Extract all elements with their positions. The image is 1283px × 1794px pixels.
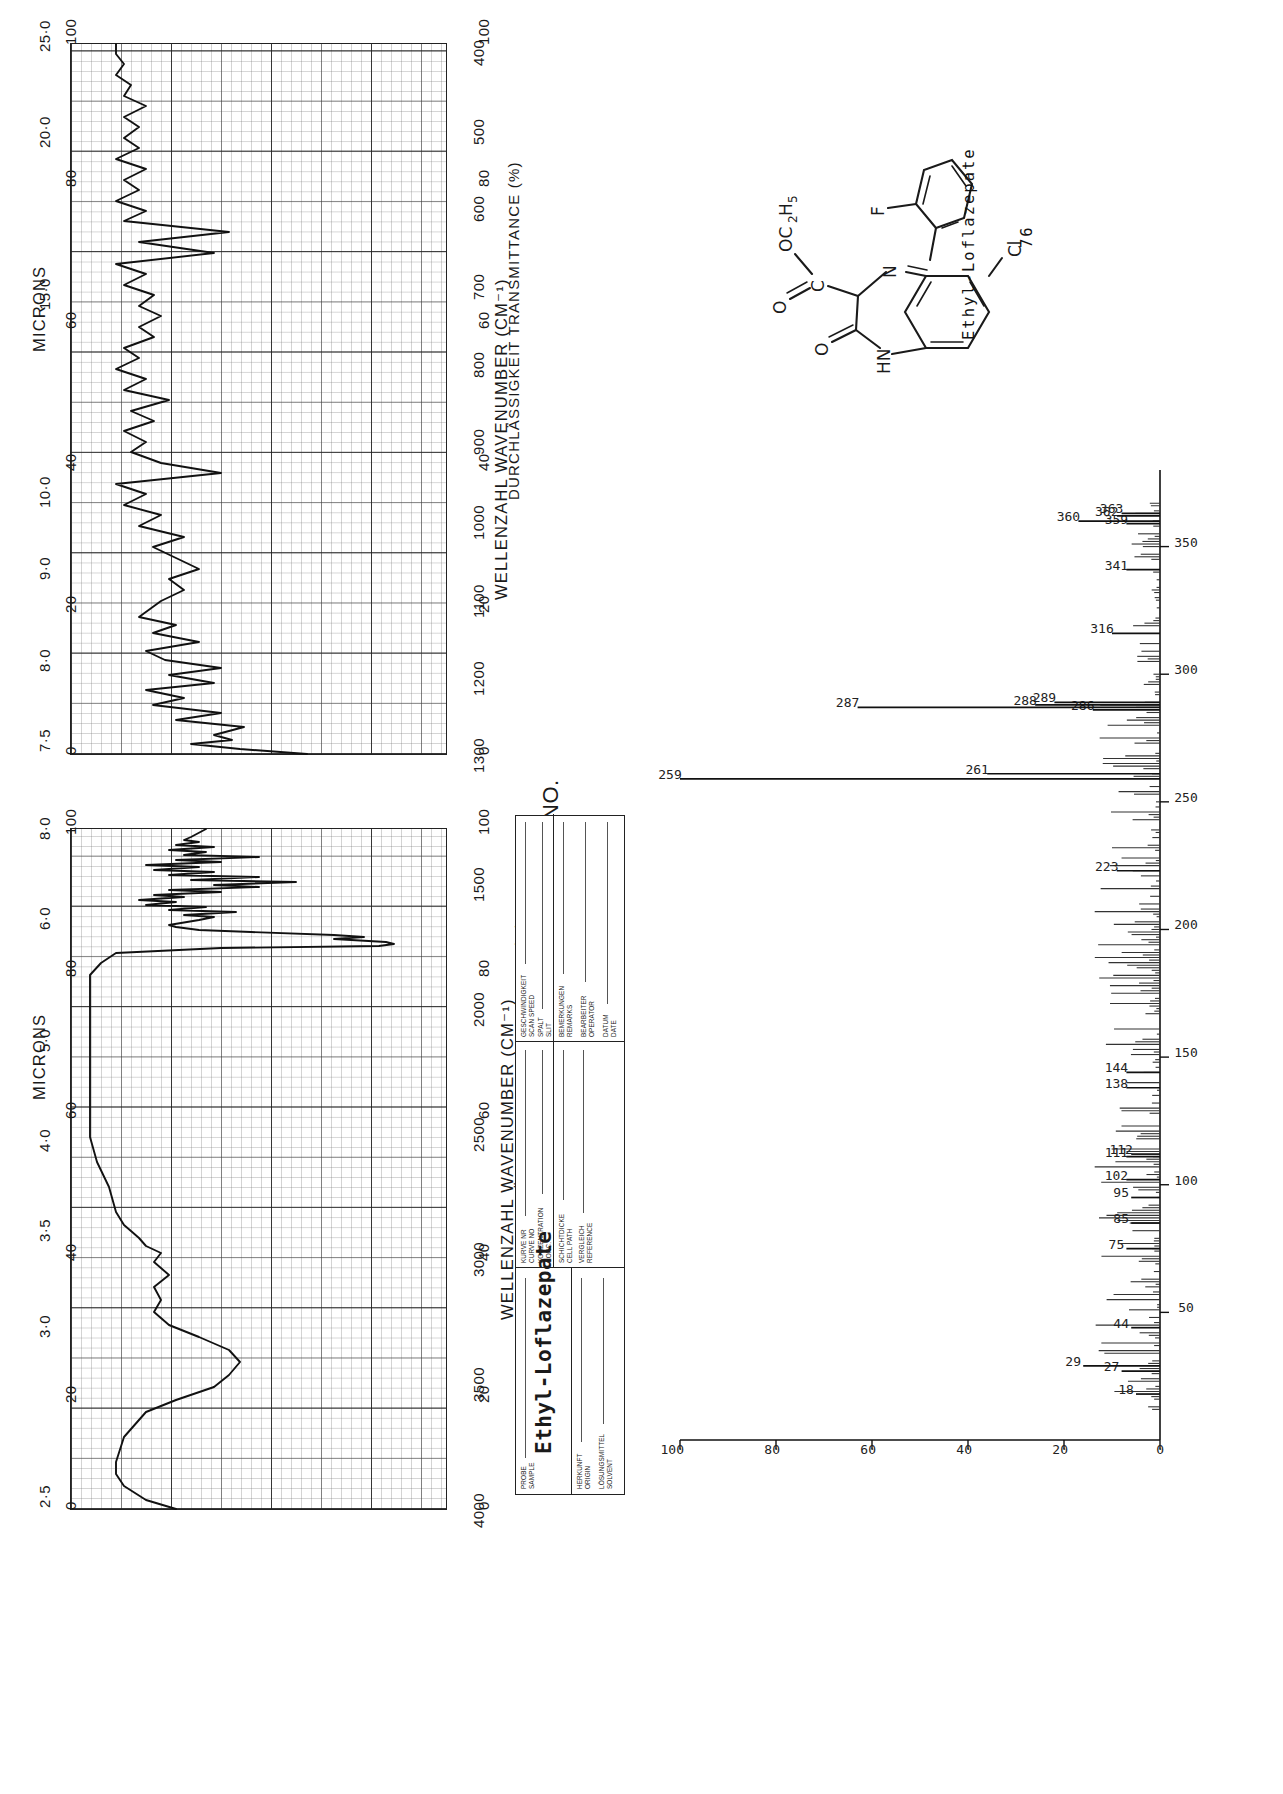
field-cell-path: SCHICHTDICKECELL PATH — [558, 1214, 573, 1263]
field-concentration: KONZENTRATIONCONC. — [537, 1207, 552, 1263]
ir-upper-micron-8: 8·0 — [36, 649, 53, 672]
svg-text:0: 0 — [1156, 1442, 1164, 1457]
ir-lower-wn-3500: 3500 — [470, 1367, 487, 1402]
svg-text:OC: OC — [776, 227, 796, 252]
field-solvent: LÖSUNGSMITTELSOLVENT — [598, 1434, 613, 1489]
ir-lower-wn-2000: 2000 — [470, 992, 487, 1027]
ir-upper-wn-700: 700 — [470, 274, 487, 300]
field-probe-sample: PROBESAMPLE — [520, 1462, 535, 1489]
ir-lower-micron-35: 3·5 — [36, 1219, 53, 1242]
field-rule-10 — [563, 822, 564, 974]
ir-upper-wn-400: 400 — [470, 40, 487, 66]
ms-peak-label: 75 — [1109, 1237, 1125, 1252]
ir-upper-t-40: 40 — [62, 454, 79, 472]
ms-peak-label: 289 — [1033, 690, 1056, 705]
svg-text:N: N — [880, 265, 900, 278]
ms-peak-label: 44 — [1113, 1316, 1129, 1331]
svg-text:5: 5 — [786, 195, 800, 203]
svg-text:H: H — [776, 203, 796, 216]
ms-peak-label: 102 — [1105, 1168, 1128, 1183]
ir-upper-t2-40: 40 — [475, 454, 492, 472]
ir-upper-t2-60: 60 — [475, 312, 492, 330]
svg-text:C: C — [808, 280, 828, 292]
svg-text:F: F — [868, 206, 888, 216]
field-scan-speed: GESCHWINDIGKEITSCAN SPEED — [520, 975, 535, 1037]
ir-upper-wn-1300: 1300 — [470, 738, 487, 773]
ir-upper-wn-600: 600 — [470, 196, 487, 222]
svg-text:60: 60 — [860, 1442, 876, 1457]
ms-peak-label: 259 — [658, 767, 681, 782]
field-rule-1 — [525, 1278, 526, 1458]
ms-peak-label: 95 — [1113, 1186, 1129, 1201]
ir-lower-t-60: 60 — [62, 1102, 79, 1120]
ir-upper-micron-75: 7·5 — [36, 729, 53, 752]
ms-peak-label: 144 — [1105, 1060, 1129, 1075]
ir-grid-lower — [70, 828, 447, 1510]
ms-peak-label: 287 — [836, 695, 859, 710]
ir-panel-lower: 100 80 60 40 20 0 100 80 60 40 20 0 8·0 … — [0, 790, 520, 1550]
ir-lower-microns-title: MICRONS — [30, 1014, 49, 1100]
svg-text:HN: HN — [874, 349, 894, 375]
compound-number-label: 76 — [1018, 225, 1036, 248]
ms-peak-label: 360 — [1057, 509, 1080, 524]
svg-text:300: 300 — [1174, 662, 1197, 677]
svg-text:250: 250 — [1174, 790, 1197, 805]
field-herkunft-origin: HERKUNFTORIGIN — [576, 1453, 591, 1489]
field-rule-11 — [585, 822, 586, 982]
ir-upper-micron-20: 20·0 — [36, 116, 53, 148]
ir-upper-micron-9: 9·0 — [36, 557, 53, 580]
ir-lower-wn-4000: 4000 — [470, 1493, 487, 1528]
ir-lower-t-40: 40 — [62, 1244, 79, 1262]
ir-upper-t-0: 0 — [62, 746, 79, 755]
svg-text:150: 150 — [1174, 1045, 1197, 1060]
svg-text:20: 20 — [1052, 1442, 1068, 1457]
ms-peak-label: 18 — [1118, 1382, 1134, 1397]
svg-text:2: 2 — [786, 215, 800, 223]
field-rule-7 — [583, 1050, 584, 1213]
ir-upper-wn-900: 900 — [470, 429, 487, 455]
field-rule-5 — [542, 1050, 543, 1194]
field-rule-4 — [525, 1050, 526, 1216]
form-sample-title: Ethyl-Loflazepate — [532, 1231, 556, 1454]
ir-upper-wn-800: 800 — [470, 352, 487, 378]
field-remarks: BEMERKUNGENREMARKS — [558, 986, 573, 1037]
field-curve-no: KURVE NRCURVE NO — [520, 1229, 535, 1263]
ir-lower-wn-3000: 3000 — [470, 1242, 487, 1277]
ms-peak-label: 363 — [1100, 501, 1123, 516]
svg-text:80: 80 — [764, 1442, 780, 1457]
ir-curve-upper — [71, 44, 446, 754]
ms-peak-label: 223 — [1095, 859, 1118, 874]
mass-spectrum-svg: 0204060801005010015020025030035018272944… — [640, 450, 1200, 1510]
ir-upper-wn-1100: 1100 — [470, 584, 487, 618]
ir-lower-t2-100: 100 — [475, 809, 492, 835]
ms-peak-label: 341 — [1105, 558, 1128, 573]
ir-lower-t-0: 0 — [62, 1501, 79, 1510]
ir-lower-t-20: 20 — [62, 1386, 79, 1404]
ms-peak-label: 112 — [1109, 1142, 1132, 1157]
svg-text:40: 40 — [956, 1442, 972, 1457]
ir-lower-t-80: 80 — [62, 960, 79, 978]
svg-text:200: 200 — [1174, 917, 1197, 932]
ir-upper-t-100: 100 — [62, 19, 79, 45]
ir-upper-t2-80: 80 — [475, 170, 492, 188]
ir-lower-t2-80: 80 — [475, 960, 492, 978]
field-operator: BEARBEITEROPERATOR — [580, 996, 595, 1037]
ir-lower-micron-4: 4·0 — [36, 1129, 53, 1152]
field-slit: SPALTSLIT — [537, 1017, 552, 1037]
ir-lower-micron-6: 6·0 — [36, 907, 53, 930]
form-box-wrapper: PROBESAMPLE Ethyl-Loflazepate HERKUNFTOR… — [515, 815, 625, 1495]
ir-upper-t-80: 80 — [62, 170, 79, 188]
ir-lower-micron-3: 3·0 — [36, 1315, 53, 1338]
ir-curve-lower — [71, 829, 446, 1509]
ms-peak-label: 316 — [1090, 621, 1113, 636]
form-box: PROBESAMPLE Ethyl-Loflazepate HERKUNFTOR… — [515, 815, 625, 1495]
ir-lower-wn-1500: 1500 — [470, 867, 487, 902]
field-rule-6 — [563, 1050, 564, 1200]
field-rule-8 — [525, 822, 526, 964]
field-rule-9 — [542, 822, 543, 1009]
ir-lower-wn-2500: 2500 — [470, 1117, 487, 1152]
mass-spectrum-panel: 0204060801005010015020025030035018272944… — [640, 450, 1200, 1510]
ir-upper-t-20: 20 — [62, 596, 79, 614]
field-rule-12 — [607, 822, 608, 1004]
ir-upper-y-title: DURCHLÄSSIGKEIT TRANSMITTANCE (%) — [505, 161, 522, 500]
